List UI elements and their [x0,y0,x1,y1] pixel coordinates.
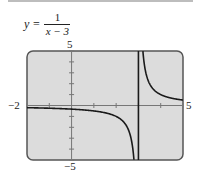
x-max-label: 5 [186,99,192,111]
x-min-label: −2 [8,99,20,111]
y-max-label: 5 [67,38,73,50]
graph-screen [0,0,200,179]
y-min-label: −5 [64,160,76,172]
